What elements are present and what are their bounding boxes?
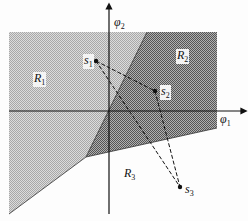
- axis-subscript: 1: [227, 119, 231, 128]
- point-s3-label: s3: [185, 183, 194, 198]
- axis-symbol: φ: [220, 112, 227, 126]
- region-r1-label: R1: [33, 72, 46, 87]
- region-r2-label: R2: [176, 49, 189, 64]
- point-s2-label: s2: [160, 85, 171, 100]
- region-subscript: 2: [184, 55, 188, 64]
- point-s1-label: s1: [83, 54, 94, 69]
- region-subscript: 3: [131, 173, 135, 182]
- point-s1: [94, 59, 98, 63]
- horizontal-axis-label: φ1: [220, 113, 231, 128]
- axis-subscript: 2: [121, 22, 125, 31]
- point-s2: [153, 89, 157, 93]
- point-subscript: 3: [190, 189, 194, 198]
- signal-space-diagram: [0, 0, 248, 221]
- region-r3-label: R3: [124, 167, 135, 182]
- point-s3: [178, 185, 182, 189]
- point-subscript: 1: [89, 60, 93, 69]
- axis-symbol: φ: [114, 15, 121, 29]
- vertical-axis-label: φ2: [114, 16, 125, 31]
- point-subscript: 2: [166, 91, 170, 100]
- region-subscript: 1: [41, 78, 45, 87]
